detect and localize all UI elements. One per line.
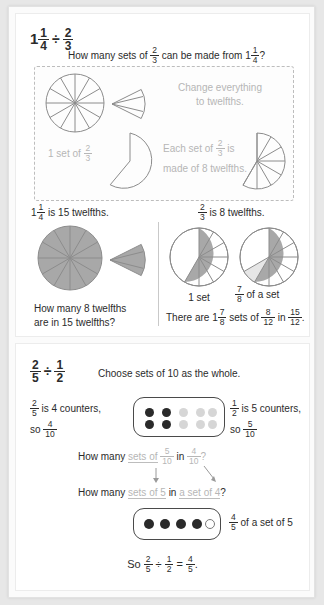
one-set-of-fraction: 23 <box>84 144 93 162</box>
panel1-question-fraction: 23 <box>150 46 159 64</box>
panel2-right-label: 12 is 5 counters, so 510 <box>230 400 324 439</box>
right-label-line-1: 12 is 5 counters, <box>230 400 324 418</box>
panel1-question-pre: How many sets of <box>68 50 147 61</box>
right-label-fraction: 12 <box>230 399 239 417</box>
left-label-so-fraction: 410 <box>43 420 56 438</box>
counter-dot <box>192 519 202 529</box>
right-label-so-fraction: 510 <box>243 420 256 438</box>
twelfths-circle-outline <box>44 72 106 134</box>
panel1-eq-whole: 1 <box>30 30 38 47</box>
panel1-label-one-set: 1 set <box>168 291 230 305</box>
three-twelfths-shaded-wedge <box>108 236 148 284</box>
fifteen-twelfths-shaded-circle <box>36 224 104 292</box>
counter-dot <box>144 519 154 529</box>
seven-eighths-fraction: 78 <box>235 285 244 303</box>
panel1-hint-change-to-twelfths: Change everything to twelfths. <box>155 81 285 108</box>
panel2-conclusion: So 25 ÷ 12 = 45. <box>16 556 309 574</box>
panel1-caption-right: 23 is 8 twelfths. <box>198 204 265 222</box>
left-question-line-1: How many 8 twelfths <box>34 302 154 316</box>
panel1-conclusion: There are 178 sets of 812 in 1512. <box>166 309 308 327</box>
hint-line-1: Change everything <box>155 81 285 95</box>
counter-dot <box>208 420 217 429</box>
conclusion-fraction-fifteen-twelfths: 1512 <box>288 308 301 326</box>
panel2-question-b: How many sets of 5 in a set of 4? <box>78 486 288 500</box>
panel1-left-question: How many 8 twelfths are in 15 twelfths? <box>34 302 154 329</box>
worksheet-sheet: 114÷23 How many sets of 23 can be made f… <box>8 6 315 598</box>
panel1-question-post: ? <box>259 50 265 61</box>
counter-dot <box>208 408 217 417</box>
conclusion-fraction-eight-twelfths: 812 <box>261 308 274 326</box>
counter-dot <box>179 408 188 417</box>
panel-one-and-quarter-divided-by-two-thirds: 114÷23 How many sets of 23 can be made f… <box>15 13 310 337</box>
counter-dot <box>196 420 205 429</box>
three-twelfths-wedge-outline <box>110 81 146 127</box>
right-label-line-2: so 510 <box>230 421 324 439</box>
counters-row-box <box>133 508 221 540</box>
panel1-label-one-set-of-two-thirds: 1 set of 23 <box>48 145 92 163</box>
conclusion-fraction-a: 25 <box>144 555 153 573</box>
counter-dot <box>160 519 170 529</box>
panel2-eq-operator: ÷ <box>41 363 55 379</box>
counter-dot <box>145 408 154 417</box>
question-a-fraction-2: 410 <box>187 447 200 465</box>
counter-dot <box>162 420 171 429</box>
eight-twelfths-wedge-outline <box>243 125 293 197</box>
panel2-eq-fraction-b: 12 <box>54 359 65 384</box>
panel1-question-mid: can be made from <box>162 50 243 61</box>
one-set-of-text: 1 set of <box>48 148 81 159</box>
question-a-fraction-1: 510 <box>160 447 173 465</box>
counter-dot <box>179 420 188 429</box>
panel1-dashed-explanation-box: Change everything to twelfths. 1 set of … <box>34 66 294 201</box>
panel2-left-label: 25 is 4 counters, so 410 <box>30 400 125 439</box>
counter-dot <box>176 519 186 529</box>
hint-line-2: to twelfths. <box>155 95 285 109</box>
hint2-fraction: 23 <box>216 139 225 157</box>
left-label-line-1: 25 is 4 counters, <box>30 400 125 418</box>
panel1-equation: 114÷23 <box>30 28 73 53</box>
conclusion-fraction-c: 45 <box>186 555 195 573</box>
counter-dot <box>196 408 205 417</box>
panel2-eq-fraction-a: 25 <box>30 359 41 384</box>
question-connector-arrows <box>126 464 236 486</box>
panel2-instruction: Choose sets of 10 as the whole. <box>98 367 240 381</box>
panel1-eq-operator: ÷ <box>49 31 63 47</box>
panel2-equation: 25÷12 <box>30 360 65 385</box>
one-set-pie <box>168 226 230 288</box>
two-thirds-pacman-outline <box>101 125 159 197</box>
question-b-group-2: a set of 4 <box>179 487 220 499</box>
question-b-group-1: sets of 5 <box>128 487 166 499</box>
panel1-question-mixed-fraction: 14 <box>251 46 260 64</box>
caption-right-fraction: 23 <box>198 203 207 221</box>
seven-eighths-of-a-set-pie <box>238 226 300 288</box>
panel-two-fifths-divided-by-one-half: 25÷12 Choose sets of 10 as the whole. 25… <box>15 343 310 591</box>
left-label-fraction: 25 <box>30 399 39 417</box>
panel1-caption-left: 114 is 15 twelfths. <box>31 204 109 222</box>
left-label-line-2: so 410 <box>30 421 125 439</box>
left-question-line-2: are in 15 twelfths? <box>34 316 154 330</box>
counter-dot-open <box>205 519 215 529</box>
panel1-column-divider <box>158 222 159 326</box>
panel2-result-label: 45 of a set of 5 <box>229 514 311 532</box>
conclusion-mixed-fraction: 78 <box>218 308 227 326</box>
conclusion-fraction-b: 12 <box>165 555 174 573</box>
counter-dot <box>145 420 154 429</box>
panel1-question: How many sets of 23 can be made from 114… <box>68 47 303 65</box>
result-fraction: 45 <box>229 513 238 531</box>
counter-dot <box>162 408 171 417</box>
caption-left-fraction: 14 <box>37 203 46 221</box>
panel1-label-seven-eighths-of-a-set: 78 of a set <box>235 286 279 304</box>
question-a-group-1: sets of <box>128 451 157 463</box>
panel1-eq-fraction-a: 14 <box>38 27 49 52</box>
counters-grid-box <box>133 397 225 437</box>
